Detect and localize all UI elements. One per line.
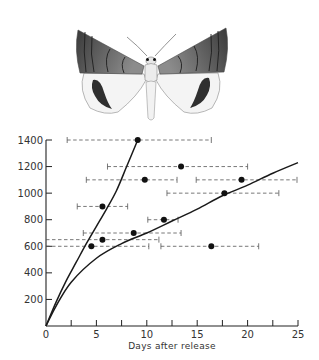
y-tick-label: 400 — [24, 267, 43, 278]
data-point — [178, 164, 184, 170]
y-tick-label: 600 — [24, 241, 43, 252]
data-point — [135, 137, 141, 143]
data-point — [208, 243, 214, 249]
y-tick-label: 800 — [24, 214, 43, 225]
data-point — [142, 177, 148, 183]
data-point — [221, 190, 227, 196]
x-tick-label: 20 — [241, 329, 254, 340]
error-bars — [46, 137, 297, 249]
x-tick-label: 25 — [292, 329, 305, 340]
y-tick-label: 200 — [24, 294, 43, 305]
x-tick-label: 0 — [43, 329, 49, 340]
lower-curve — [46, 163, 298, 326]
data-point — [99, 237, 105, 243]
chart: 0510152025200400600800100012001400 Days … — [0, 0, 319, 360]
data-point — [161, 217, 167, 223]
data-point — [131, 230, 137, 236]
data-point — [239, 177, 245, 183]
x-axis-title: Days after release — [128, 341, 216, 351]
tick-labels: 0510152025200400600800100012001400 — [18, 135, 305, 341]
y-tick-label: 1000 — [18, 188, 43, 199]
data-point — [88, 243, 94, 249]
x-tick-label: 10 — [140, 329, 153, 340]
data-point — [99, 203, 105, 209]
y-tick-label: 1200 — [18, 161, 43, 172]
y-tick-label: 1400 — [18, 135, 43, 146]
x-tick-label: 15 — [191, 329, 204, 340]
x-tick-label: 5 — [93, 329, 99, 340]
